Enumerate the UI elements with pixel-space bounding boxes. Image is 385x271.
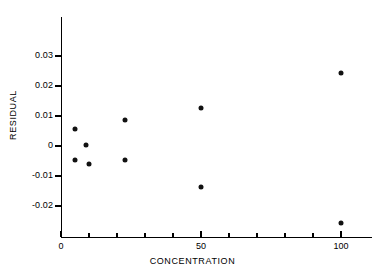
plot-area: 0.030.020.010-0.01-0.02 050100 RESIDUAL … xyxy=(0,0,385,271)
x-tick-mark-minor xyxy=(256,233,257,237)
scatter-point xyxy=(123,157,128,162)
x-tick-mark-major xyxy=(340,231,341,237)
x-tick-mark-major xyxy=(60,231,61,237)
scatter-point xyxy=(73,157,78,162)
y-tick-mark xyxy=(55,205,61,206)
x-tick-mark-minor xyxy=(88,233,89,237)
x-tick-mark-minor xyxy=(116,233,117,237)
scatter-point xyxy=(199,105,204,110)
residual-scatter-figure: 0.030.020.010-0.01-0.02 050100 RESIDUAL … xyxy=(0,0,385,271)
scatter-point xyxy=(123,117,128,122)
x-tick-label: 100 xyxy=(321,242,361,251)
y-axis-title: RESIDUAL xyxy=(8,75,18,155)
y-tick-mark xyxy=(55,175,61,176)
x-tick-mark-minor xyxy=(312,233,313,237)
scatter-point xyxy=(339,70,344,75)
y-tick-label: 0.03 xyxy=(6,51,53,60)
y-tick-mark xyxy=(55,55,61,56)
x-tick-mark-major xyxy=(200,231,201,237)
x-axis-line xyxy=(61,237,372,238)
scatter-point xyxy=(87,162,92,167)
x-tick-mark-minor xyxy=(172,233,173,237)
y-tick-mark xyxy=(55,85,61,86)
scatter-point xyxy=(339,220,344,225)
scatter-point xyxy=(73,126,78,131)
y-tick-mark xyxy=(55,145,61,146)
scatter-point xyxy=(199,184,204,189)
x-tick-mark-minor xyxy=(144,233,145,237)
x-tick-label: 0 xyxy=(41,242,81,251)
scatter-point xyxy=(84,143,89,148)
x-axis-title: CONCENTRATION xyxy=(0,256,385,266)
x-tick-mark-minor xyxy=(228,233,229,237)
y-axis-line xyxy=(61,17,62,238)
x-tick-mark-minor xyxy=(284,233,285,237)
y-tick-label: -0.01 xyxy=(6,171,53,180)
y-tick-mark xyxy=(55,115,61,116)
x-tick-label: 50 xyxy=(181,242,221,251)
y-tick-label: -0.02 xyxy=(6,201,53,210)
